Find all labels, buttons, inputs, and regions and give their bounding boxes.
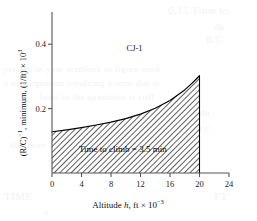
x-axis-title: Altitude h, ft × 10−3 bbox=[92, 198, 164, 210]
x-tick-label: 24 bbox=[225, 179, 234, 189]
y-axis-title: (R/C)−1, minimum, (1/ft) × 103 bbox=[16, 18, 28, 188]
series-label-cj1: CJ-1 bbox=[127, 43, 143, 53]
y-axis-title-base: (R/C) bbox=[18, 137, 28, 157]
y-axis-tick-marks bbox=[48, 44, 52, 108]
figure-container: 04812162024 0.20.4 Altitude h, ft × 10−3… bbox=[0, 0, 257, 221]
x-tick-label: 4 bbox=[79, 179, 83, 189]
x-tick-label: 0 bbox=[50, 179, 54, 189]
x-tick-label: 20 bbox=[195, 179, 204, 189]
x-tick-label: 16 bbox=[166, 179, 175, 189]
y-axis-title-tail-exponent: 3 bbox=[16, 50, 23, 53]
annotation-time-to-climb: Time to climb = 3.5 min bbox=[79, 144, 167, 154]
y-axis-title-middle: , minimum, (1/ft) × 10 bbox=[18, 53, 28, 130]
x-axis-title-suffix: , ft × 10 bbox=[128, 200, 157, 210]
x-axis-title-exponent: −3 bbox=[157, 198, 164, 205]
area-fill-hatched bbox=[52, 76, 200, 173]
x-axis-tick-marks bbox=[52, 173, 229, 177]
y-axis-title-base-exponent: −1 bbox=[16, 130, 23, 137]
x-tick-label: 8 bbox=[109, 179, 113, 189]
x-axis-title-prefix: Altitude bbox=[92, 200, 124, 210]
x-tick-label: 12 bbox=[136, 179, 145, 189]
